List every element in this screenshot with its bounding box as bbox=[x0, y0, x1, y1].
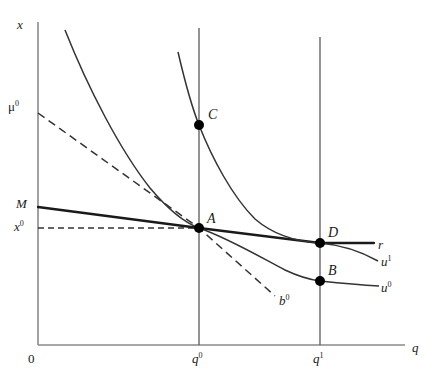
y-axis-label: x bbox=[17, 18, 23, 31]
x-axis-label: q bbox=[412, 341, 419, 354]
point-label-D: D bbox=[328, 226, 338, 240]
y-tick-x0-sup: 0 bbox=[20, 219, 24, 228]
curve-label-r-text: r bbox=[378, 237, 383, 252]
y-tick-mu0-sup: 0 bbox=[15, 99, 19, 108]
curve-b0-dashed bbox=[38, 113, 275, 296]
curve-label-b0-sup: 0 bbox=[286, 293, 290, 302]
x-tick-q0: q0 bbox=[192, 352, 203, 365]
curve-label-u0-sup: 0 bbox=[388, 280, 392, 289]
y-tick-M-text: M bbox=[16, 196, 27, 211]
curve-label-b0: b0 bbox=[279, 294, 290, 307]
point-label-A: A bbox=[207, 212, 216, 226]
y-tick-mu0-text: μ bbox=[8, 99, 15, 114]
y-tick-x0: x0 bbox=[14, 220, 24, 233]
x-tick-q1: q1 bbox=[313, 352, 324, 365]
x-tick-q1-sup: 1 bbox=[320, 351, 324, 360]
y-tick-mu0: μ0 bbox=[8, 100, 19, 113]
curve-r-line bbox=[38, 207, 374, 243]
point-D bbox=[315, 238, 325, 248]
y-tick-M: M bbox=[16, 197, 27, 210]
diagram-canvas bbox=[0, 0, 428, 381]
point-C bbox=[194, 120, 204, 130]
curve-label-u1-sup: 1 bbox=[388, 254, 392, 263]
curve-label-u0: u0 bbox=[381, 281, 392, 294]
x-tick-q0-sup: 0 bbox=[199, 351, 203, 360]
point-label-B: B bbox=[328, 264, 337, 278]
curve-label-r: r bbox=[378, 238, 383, 251]
origin-label: 0 bbox=[28, 352, 35, 365]
indifference-curve-figure: x q 0 μ0 M x0 q0 q1 A B C D r u1 u0 b0 bbox=[0, 0, 428, 381]
point-B bbox=[315, 276, 325, 286]
point-A bbox=[194, 223, 204, 233]
curve-label-u1: u1 bbox=[381, 255, 392, 268]
point-label-C: C bbox=[208, 108, 217, 122]
